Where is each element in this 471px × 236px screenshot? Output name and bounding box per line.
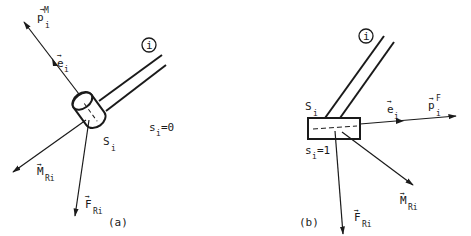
- section-label-a: S i: [103, 135, 116, 153]
- axis-line-b: [360, 116, 456, 124]
- svg-text:=0: =0: [161, 121, 174, 134]
- force-vector-label-a: → F Ri: [85, 192, 103, 216]
- svg-text:Ri: Ri: [362, 220, 372, 229]
- load-vector-label-a: → p M i: [37, 5, 50, 30]
- svg-text:i: i: [394, 112, 399, 121]
- position-label-b: s i =1: [305, 144, 330, 161]
- position-label-a: s i =0: [149, 121, 174, 138]
- svg-text:s: s: [305, 144, 312, 157]
- svg-text:F: F: [85, 198, 92, 211]
- svg-text:M: M: [37, 165, 44, 178]
- box-section-b: [308, 118, 360, 139]
- cylinder-section-a: [69, 88, 109, 132]
- moment-vector-label-a: → M Ri: [37, 160, 55, 183]
- section-label-b: S i: [305, 100, 318, 118]
- moment-vector-label-b: → M Ri: [400, 189, 418, 212]
- svg-text:Ri: Ri: [408, 203, 418, 212]
- member-bar-a: [99, 55, 166, 111]
- svg-text:i: i: [436, 109, 441, 118]
- svg-text:M: M: [44, 6, 49, 15]
- svg-text:S: S: [305, 100, 312, 113]
- svg-text:p: p: [428, 99, 435, 112]
- svg-text:Ri: Ri: [45, 174, 55, 183]
- svg-text:i: i: [313, 109, 318, 118]
- panel-b: i S i s i =1 → e i → p: [299, 29, 456, 234]
- svg-text:e: e: [57, 57, 64, 70]
- svg-text:S: S: [103, 135, 110, 148]
- svg-text:i: i: [363, 30, 370, 43]
- member-bar-b: [325, 36, 394, 118]
- svg-text:F: F: [354, 211, 361, 224]
- caption-a: (a): [108, 216, 128, 229]
- svg-text:s: s: [149, 121, 156, 134]
- member-label-b: i: [359, 29, 373, 43]
- svg-text:M: M: [400, 194, 407, 207]
- force-arrow-b: [335, 131, 343, 234]
- axis-vector-label-a: → e i: [57, 51, 69, 74]
- svg-text:=1: =1: [317, 144, 330, 157]
- svg-text:i: i: [64, 65, 69, 74]
- svg-text:p: p: [37, 11, 44, 24]
- moment-arrow-a: [13, 120, 86, 172]
- svg-text:i: i: [146, 39, 153, 52]
- svg-text:F: F: [436, 94, 441, 103]
- svg-text:Ri: Ri: [93, 207, 103, 216]
- svg-text:e: e: [387, 103, 394, 116]
- axis-vector-label-b: → e i: [387, 97, 399, 121]
- free-body-diagram: i → p M i → e i S i: [0, 0, 471, 236]
- svg-text:i: i: [45, 21, 50, 30]
- load-vector-label-b: → p F i: [428, 94, 441, 118]
- caption-b: (b): [299, 216, 319, 229]
- member-label-a: i: [142, 38, 156, 52]
- moment-arrow-b: [342, 132, 413, 185]
- svg-text:i: i: [111, 144, 116, 153]
- force-vector-label-b: → F Ri: [354, 206, 372, 229]
- panel-a: i → p M i → e i S i: [13, 5, 174, 229]
